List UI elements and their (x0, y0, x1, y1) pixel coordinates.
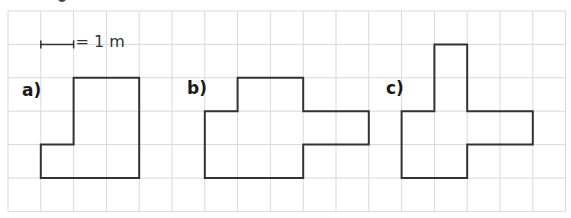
shape-label-a: a) (22, 82, 41, 99)
shape-label-b: b) (187, 80, 207, 97)
shape-outline-b (205, 78, 369, 178)
shape-outline-a (41, 78, 139, 178)
scale-bar (41, 40, 74, 48)
shape-outline-c (402, 44, 533, 178)
shape-label-c: c) (386, 80, 404, 97)
scale-label: = 1 m (76, 34, 125, 50)
